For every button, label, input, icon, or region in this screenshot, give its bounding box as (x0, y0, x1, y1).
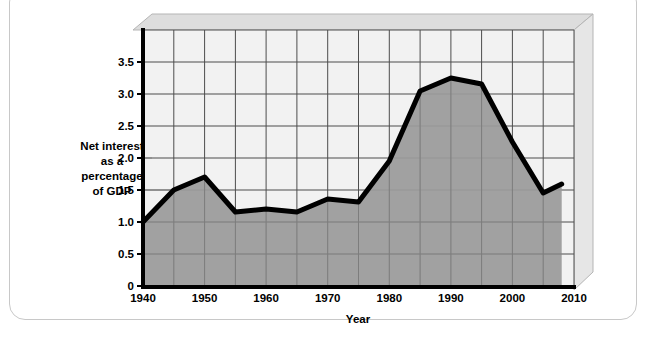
y-axis-title-line-3: percentage (81, 170, 142, 182)
area-chart: 0 0.5 1.0 1.5 2.0 2.5 3.0 3.5 1940 1950 … (0, 0, 649, 339)
y-axis-title-line-4: of GDP (93, 185, 132, 197)
x-tick-label-2000: 2000 (500, 292, 526, 304)
x-tick-label-1980: 1980 (377, 292, 403, 304)
y-tick-label-0: 0 (128, 280, 134, 292)
chart-right-bevel (574, 14, 593, 290)
y-axis-title-line-1: Net interest (80, 140, 143, 152)
x-tick-label-1990: 1990 (438, 292, 464, 304)
x-tick-label-1960: 1960 (253, 292, 279, 304)
y-tick-label-0-5: 0.5 (118, 248, 135, 260)
x-tick-label-1950: 1950 (192, 292, 218, 304)
chart-top-bevel (133, 14, 593, 30)
x-axis-title: Year (346, 313, 371, 325)
y-tick-label-2-5: 2.5 (118, 120, 135, 132)
y-tick-label-3-0: 3.0 (118, 88, 134, 100)
x-tick-label-1970: 1970 (315, 292, 341, 304)
y-tick-label-1-0: 1.0 (118, 216, 134, 228)
x-tick-label-2010: 2010 (561, 292, 587, 304)
y-axis-title-line-2: as a (101, 155, 124, 167)
y-tick-label-3-5: 3.5 (118, 56, 135, 68)
chart-container: 0 0.5 1.0 1.5 2.0 2.5 3.0 3.5 1940 1950 … (0, 0, 649, 339)
figure-page: 0 0.5 1.0 1.5 2.0 2.5 3.0 3.5 1940 1950 … (0, 0, 649, 339)
y-axis-title: Net interest as a percentage of GDP (80, 140, 143, 197)
x-tick-label-1940: 1940 (130, 292, 156, 304)
